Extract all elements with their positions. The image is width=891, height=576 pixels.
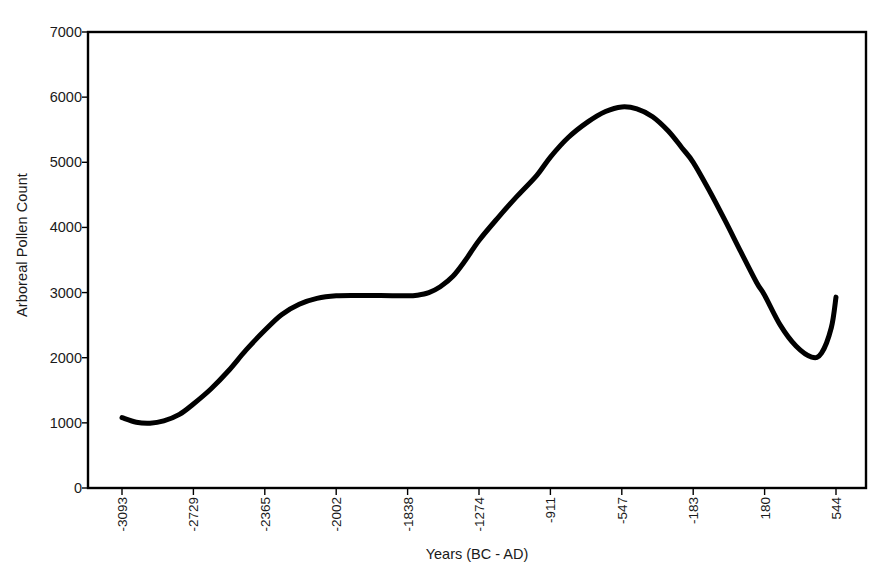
data-series-line (122, 107, 836, 423)
plot-frame-rect (88, 32, 866, 488)
pollen-count-line (122, 107, 836, 423)
pollen-count-chart: Arboreal Pollen Count 010002000300040005… (0, 0, 891, 576)
plot-area (0, 0, 891, 576)
axis-tick-marks (82, 32, 836, 495)
plot-frame (88, 32, 866, 488)
